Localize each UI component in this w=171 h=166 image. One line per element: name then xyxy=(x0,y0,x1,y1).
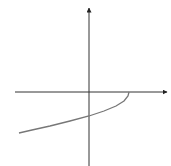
chart-plot xyxy=(0,0,171,166)
curve-series xyxy=(19,92,129,133)
